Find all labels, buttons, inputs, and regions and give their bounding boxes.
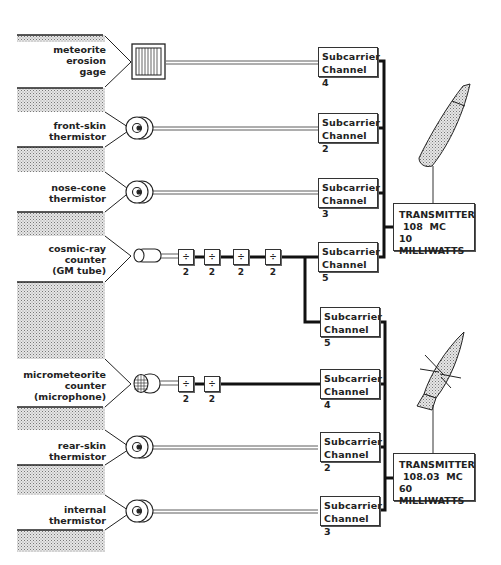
subcarrier-channel-5: SubcarrierChannel 5 [318,242,378,272]
divide-by-2-box: ÷ 2 [204,376,220,392]
subcarrier-channel-3: SubcarrierChannel 3 [318,178,378,208]
label-cosmic-ray-counter: cosmic-ray counter (GM tube) [48,243,106,276]
label-front-skin-thermistor: front-skin thermistor [49,120,106,142]
rocket-icon [417,332,464,453]
signal-wires [148,61,318,513]
divide-by-2-box: ÷ 2 [233,249,249,265]
label-internal-thermistor: internal thermistor [49,504,106,526]
subcarrier-channel-3-b: SubcarrierChannel 3 [320,496,380,526]
gage-icon [132,44,165,79]
divide-by-2-box: ÷ 2 [178,376,194,392]
subcarrier-channel-2-b: SubcarrierChannel 2 [320,432,380,462]
hull-bands [17,35,105,552]
label-nose-cone-thermistor: nose-cone thermistor [49,182,106,204]
label-rear-skin-thermistor: rear-skin thermistor [49,440,106,462]
divide-by-2-box: ÷ 2 [178,249,194,265]
subcarrier-channel-4: SubcarrierChannel 4 [318,47,378,77]
transmitter-108-03mc: TRANSMITTER 108.03 MC 60 MILLIWATTS [393,453,475,501]
subcarrier-channel-4-b: SubcarrierChannel 4 [320,369,380,399]
transmitter-108mc: TRANSMITTER 108 MC 10 MILLIWATTS [393,203,475,251]
label-meteorite-erosion-gage: meteorite erosion gage [53,44,106,77]
thermistor-icon [126,500,153,522]
divide-by-2-box: ÷ 2 [204,249,220,265]
sensor-pointers [105,36,131,530]
thermistor-icon [126,436,153,458]
microphone-icon [134,374,160,393]
thermistor-icon [126,117,153,139]
divide-by-2-box: ÷ 2 [265,249,281,265]
subcarrier-channel-5-b: SubcarrierChannel 5 [320,307,380,337]
label-micrometeorite-counter: micrometeorite counter (microphone) [23,369,106,402]
subcarrier-channel-2: SubcarrierChannel 2 [318,113,378,143]
thermistor-icon [126,181,153,203]
rocket-icon [419,84,470,203]
thermistor-icons [126,117,153,522]
gm-tube-icon [134,249,161,262]
